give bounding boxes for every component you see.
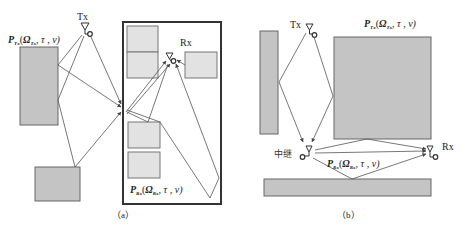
tx-label-b: Tx [290,19,301,30]
ground-scatterer-b [264,179,431,196]
rx-antenna-icon-b [427,146,438,159]
tx-label-a: Tx [77,11,88,22]
channel-model-diagram: Tx Rx PTx(ΩTx, τ , ν) PRx(ΩRx, τ , ν) （a… [0,0,461,236]
rx-scatterer-5 [128,152,160,178]
tx-param-a: PTx(ΩTx, τ , ν) [8,34,61,46]
large-scatterer-b [334,37,431,139]
tx-antenna-icon-b [306,24,317,37]
rx-param-b: PRx(ΩRx, τ , ν) [327,158,380,170]
panel-a: Tx Rx PTx(ΩTx, τ , ν) PRx(ΩRx, τ , ν) （a… [8,11,221,220]
rx-scatterer-1 [127,26,158,52]
panel-b: Tx Rx 中继 PTx(ΩTx, τ , ν) PRx(ΩRx, τ , ν)… [260,18,454,220]
relay-label: 中继 [274,148,292,159]
rx-antenna-icon [166,53,176,63]
left-scatterer-b [260,31,278,134]
relay-antenna-icon [300,146,312,159]
tx-antenna-icon [81,23,92,36]
tx-scatterer-large [20,47,58,125]
rx-label-a: Rx [180,37,192,48]
rx-param-a: PRx(ΩRx, τ , ν) [130,184,183,196]
caption-a: （a） [112,210,134,220]
caption-b: （b） [337,210,360,220]
rx-scatterer-4 [128,122,160,148]
rx-scatterer-3 [185,52,217,78]
rx-scatterer-2 [127,52,158,78]
rx-label-b: Rx [442,141,454,152]
tx-scatterer-small [35,167,80,201]
tx-param-b: PTx(ΩTx, τ , ν) [364,18,417,30]
